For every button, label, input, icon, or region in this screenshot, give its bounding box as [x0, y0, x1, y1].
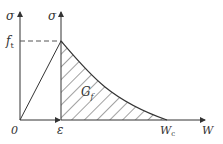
diagram-canvas: σ σ ft 0 ε Gf Wc W [0, 0, 223, 144]
right-axis-label: σ [48, 9, 57, 23]
elastic-branch [20, 41, 61, 120]
left-axis-label: σ [6, 9, 15, 23]
strain-label: ε [57, 123, 63, 137]
peak-stress-label: ft [5, 34, 14, 50]
fracture-energy-area [61, 41, 167, 120]
critical-crack-width-label: Wc [160, 124, 175, 138]
origin-label: 0 [11, 124, 18, 137]
x-axis-label: W [202, 124, 215, 137]
